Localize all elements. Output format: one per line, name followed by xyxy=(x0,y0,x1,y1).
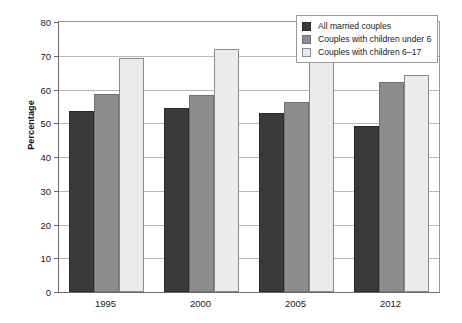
y-axis-tick-label: 60 xyxy=(40,84,51,95)
y-axis-title: Percentage xyxy=(26,85,36,165)
bar xyxy=(404,75,429,292)
y-axis-tick-label: 70 xyxy=(40,50,51,61)
y-axis-tick xyxy=(54,258,59,259)
bar-group xyxy=(164,22,239,292)
y-axis-tick-label: 0 xyxy=(46,287,51,298)
y-axis-tick xyxy=(54,90,59,91)
y-axis-tick-label: 10 xyxy=(40,253,51,264)
chart-legend: All married couplesCouples with children… xyxy=(296,15,438,63)
legend-swatch-icon xyxy=(302,48,311,57)
bar xyxy=(354,126,379,292)
bar xyxy=(214,49,239,292)
legend-item: Couples with children under 6 xyxy=(302,33,431,45)
bar-group xyxy=(69,22,144,292)
legend-swatch-icon xyxy=(302,35,311,44)
bar xyxy=(164,108,189,292)
x-axis-tick-label: 1995 xyxy=(95,298,116,309)
x-axis-tick-label: 2000 xyxy=(190,298,211,309)
y-axis-tick-label: 80 xyxy=(40,17,51,28)
y-axis-tick-label: 40 xyxy=(40,152,51,163)
bar-chart: Percentage 01020304050607080 19952000200… xyxy=(0,0,462,323)
bar xyxy=(119,58,144,292)
bar xyxy=(379,82,404,292)
y-axis-tick-label: 30 xyxy=(40,185,51,196)
bar xyxy=(94,94,119,292)
legend-swatch-icon xyxy=(302,22,311,31)
legend-item-label: Couples with children under 6 xyxy=(318,34,431,44)
legend-item-label: All married couples xyxy=(318,21,391,31)
y-axis-tick-label: 50 xyxy=(40,118,51,129)
bar xyxy=(259,113,284,292)
legend-item-label: Couples with children 6–17 xyxy=(318,47,421,57)
y-axis-tick xyxy=(54,56,59,57)
y-axis-tick xyxy=(54,292,59,293)
y-axis-tick xyxy=(54,191,59,192)
y-axis-tick xyxy=(54,22,59,23)
legend-item: All married couples xyxy=(302,20,431,32)
bar xyxy=(309,60,334,292)
y-axis-tick-label: 20 xyxy=(40,219,51,230)
x-axis-tick-label: 2012 xyxy=(380,298,401,309)
y-axis-tick xyxy=(54,123,59,124)
bar xyxy=(284,102,309,292)
bar xyxy=(69,111,94,292)
bar xyxy=(189,95,214,292)
legend-item: Couples with children 6–17 xyxy=(302,46,431,58)
x-axis-tick-label: 2005 xyxy=(285,298,306,309)
y-axis-tick xyxy=(54,157,59,158)
y-axis-tick xyxy=(54,225,59,226)
